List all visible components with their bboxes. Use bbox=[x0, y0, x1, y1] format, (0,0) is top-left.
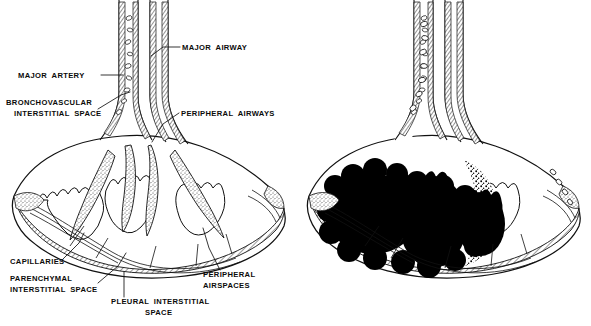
label-text-pleural-interstitial-space-line1: PLEURAL INTERSTITIAL bbox=[111, 297, 210, 306]
label-text-major-artery: MAJOR ARTERY bbox=[18, 71, 85, 80]
label-text-bronchovascular-interstitial-space-line1: BRONCHOVASCULAR bbox=[6, 98, 92, 107]
label-text-major-airway: MAJOR AIRWAY bbox=[182, 43, 247, 52]
label-text-capillaries: CAPILLARIES bbox=[10, 257, 64, 266]
label-text-parenchymal-interstitial-space-line1: PARENCHYMAL bbox=[10, 274, 72, 283]
label-text-bronchovascular-interstitial-space-line2: INTERSTITIAL SPACE bbox=[14, 109, 102, 118]
label-text-peripheral-airways: PERIPHERAL AIRWAYS bbox=[181, 109, 275, 118]
label-text-peripheral-airspaces-line1: PERIPHERAL bbox=[203, 270, 255, 279]
lung-interstitium-figure: MAJOR AIRWAY MAJOR ARTERY BRONCHOVASCULA… bbox=[0, 0, 591, 326]
label-text-pleural-interstitial-space-line2: SPACE bbox=[145, 308, 172, 317]
label-text-parenchymal-interstitial-space-line2: INTERSTITIAL SPACE bbox=[10, 285, 98, 294]
label-text-peripheral-airspaces-line2: AIRSPACES bbox=[203, 281, 250, 290]
